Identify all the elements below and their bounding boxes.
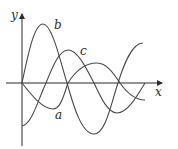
x-axis-label: x xyxy=(155,85,162,99)
curve-a xyxy=(22,63,145,109)
plot-area: y x b c a xyxy=(0,0,178,149)
curve-b-label: b xyxy=(54,18,62,32)
curve-a-label: a xyxy=(55,108,62,122)
curve-c-label: c xyxy=(80,44,87,58)
y-axis-label: y xyxy=(10,8,18,22)
curve-b xyxy=(22,24,143,134)
graph-figure: y x b c a xyxy=(0,0,178,149)
